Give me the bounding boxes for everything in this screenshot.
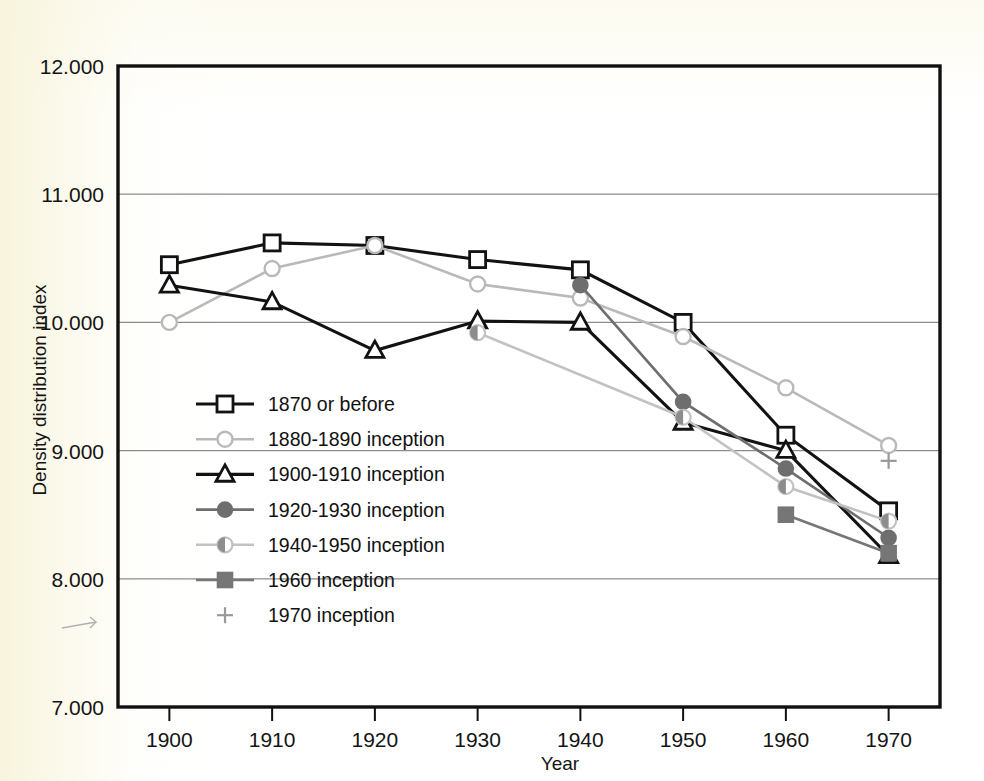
series-1970-inception [881, 453, 897, 469]
legend-item-label: 1940-1950 inception [268, 534, 445, 556]
plot-frame [118, 66, 940, 707]
legend-item-label: 1880-1890 inception [268, 428, 445, 450]
marker-filled-circle [218, 502, 233, 517]
legend-item-1970-inception[interactable]: 1970 inception [217, 604, 395, 626]
legend-item-1870-or-before[interactable]: 1870 or before [196, 393, 395, 415]
marker-open-circle [676, 329, 691, 344]
plot-border [118, 66, 940, 707]
marker-half-filled-circle [470, 325, 485, 340]
marker-open-circle [881, 438, 896, 453]
marker-open-square [470, 252, 486, 268]
marker-half-filled-circle [218, 537, 233, 552]
marker-filled-circle [778, 461, 793, 476]
y-axis-title: Density distribution index [29, 284, 50, 496]
marker-filled-square [881, 546, 896, 561]
marker-filled-square [218, 573, 233, 588]
x-tick-label: 1940 [557, 728, 604, 751]
x-axis-tick-labels: 19001910192019301940195019601970 [146, 728, 912, 751]
legend-item-label: 1920-1930 inception [268, 499, 445, 521]
x-tick-label: 1930 [454, 728, 501, 751]
marker-half-filled-circle [881, 514, 896, 529]
marker-plus [217, 607, 233, 623]
chart-figure: 7.0008.0009.00010.00011.00012.000 190019… [0, 0, 984, 781]
chart-canvas [0, 0, 984, 781]
legend-item-label: 1960 inception [268, 569, 395, 591]
legend-item-1880-1890-inception[interactable]: 1880-1890 inception [196, 428, 445, 450]
legend-item-label: 1900-1910 inception [268, 463, 445, 485]
marker-open-square [572, 262, 588, 278]
gridlines-group [118, 194, 940, 579]
x-tick-label: 1900 [146, 728, 193, 751]
x-tick-label: 1960 [763, 728, 810, 751]
series-line [580, 285, 888, 538]
series-1920-1930-inception [573, 278, 896, 546]
marker-open-circle [778, 380, 793, 395]
marker-filled-circle [573, 278, 588, 293]
legend-item-label: 1870 or before [268, 393, 395, 415]
legend-item-1960-inception[interactable]: 1960 inception [196, 569, 395, 591]
x-tick-label: 1920 [352, 728, 399, 751]
x-axis-ticks [169, 707, 888, 721]
y-tick-label: 9.000 [51, 440, 104, 463]
marker-filled-circle [881, 530, 896, 545]
density-distribution-line-chart: 7.0008.0009.00010.00011.00012.000 190019… [0, 0, 984, 781]
marker-open-circle [218, 432, 233, 447]
chart-legend: 1870 or before1880-1890 inception1900-19… [196, 393, 445, 626]
marker-open-square [161, 257, 177, 273]
marker-open-square [217, 396, 233, 412]
legend-item-label: 1970 inception [268, 604, 395, 626]
marker-open-circle [265, 261, 280, 276]
marker-open-circle [162, 315, 177, 330]
y-tick-label: 11.000 [41, 183, 104, 206]
x-tick-label: 1950 [660, 728, 707, 751]
x-tick-label: 1910 [249, 728, 296, 751]
marker-open-square [264, 235, 280, 251]
x-axis-title: Year [541, 753, 580, 774]
marker-half-filled-circle [676, 410, 691, 425]
marker-open-triangle [160, 276, 178, 292]
legend-item-1900-1910-inception[interactable]: 1900-1910 inception [196, 463, 445, 485]
y-tick-label: 8.000 [51, 568, 104, 591]
marker-open-circle [470, 276, 485, 291]
y-tick-label: 7.000 [51, 696, 104, 719]
legend-item-1920-1930-inception[interactable]: 1920-1930 inception [196, 499, 445, 521]
marker-filled-circle [676, 394, 691, 409]
stray-pen-mark [62, 617, 96, 628]
x-tick-label: 1970 [865, 728, 912, 751]
marker-filled-square [778, 507, 793, 522]
series-1880-1890-inception [162, 238, 896, 453]
y-tick-label: 12.000 [40, 55, 104, 78]
series-1960-inception [778, 507, 896, 560]
marker-open-circle [367, 238, 382, 253]
marker-plus [881, 453, 897, 469]
legend-item-1940-1950-inception[interactable]: 1940-1950 inception [196, 534, 445, 556]
series-line [786, 515, 889, 553]
marker-half-filled-circle [778, 479, 793, 494]
